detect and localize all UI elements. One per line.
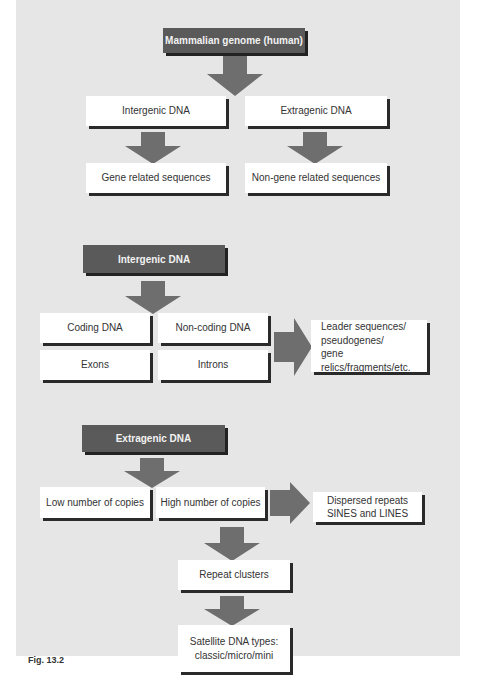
introns-node: Introns bbox=[158, 350, 268, 380]
dispersed-repeats-node: Dispersed repeats SINES and LINES bbox=[313, 492, 422, 522]
dispersed-repeats-label: Dispersed repeats bbox=[327, 494, 408, 508]
coding-dna-node: Coding DNA bbox=[40, 313, 150, 343]
leader-sequences-node: Leader sequences/ pseudogenes/ gene reli… bbox=[311, 320, 427, 372]
gene-related-label: Gene related sequences bbox=[102, 171, 211, 185]
gene-relics-label: gene relics/fragments/etc. bbox=[321, 347, 427, 374]
figure-caption: Fig. 13.2 bbox=[28, 655, 64, 665]
arrow-down-icon bbox=[287, 132, 343, 164]
intergenic-dna-node: Intergenic DNA bbox=[86, 96, 226, 126]
root-node-label: Mammalian genome (human) bbox=[165, 35, 303, 46]
satellite-types-label: Satellite DNA types: bbox=[190, 635, 278, 649]
extragenic-header: Extragenic DNA bbox=[82, 425, 225, 452]
satellite-dna-node: Satellite DNA types: classic/micro/mini bbox=[178, 625, 290, 672]
pseudogenes-label: pseudogenes/ bbox=[321, 334, 384, 348]
gene-related-node: Gene related sequences bbox=[86, 163, 226, 193]
arrow-right-icon bbox=[270, 482, 310, 524]
arrow-down-icon bbox=[207, 56, 263, 96]
repeat-clusters-node: Repeat clusters bbox=[178, 560, 290, 590]
high-copies-node: High number of copies bbox=[156, 487, 265, 518]
arrow-right-icon bbox=[274, 318, 312, 376]
arrow-down-icon bbox=[204, 596, 260, 626]
coding-dna-label: Coding DNA bbox=[67, 321, 123, 335]
exons-node: Exons bbox=[40, 350, 150, 380]
non-coding-dna-label: Non-coding DNA bbox=[175, 321, 250, 335]
high-copies-label: High number of copies bbox=[160, 496, 260, 510]
extragenic-dna-label: Extragenic DNA bbox=[280, 104, 351, 118]
non-gene-related-label: Non-gene related sequences bbox=[252, 171, 380, 185]
arrow-down-icon bbox=[125, 281, 181, 314]
non-gene-related-node: Non-gene related sequences bbox=[245, 163, 387, 193]
repeat-clusters-label: Repeat clusters bbox=[199, 568, 268, 582]
extragenic-header-label: Extragenic DNA bbox=[116, 433, 192, 444]
arrow-down-icon bbox=[124, 458, 180, 488]
introns-label: Introns bbox=[198, 358, 229, 372]
low-copies-node: Low number of copies bbox=[40, 487, 150, 518]
intergenic-dna-label: Intergenic DNA bbox=[122, 104, 190, 118]
root-node: Mammalian genome (human) bbox=[163, 28, 305, 53]
intergenic-header: Intergenic DNA bbox=[83, 245, 225, 273]
exons-label: Exons bbox=[81, 358, 109, 372]
leader-sequences-label: Leader sequences/ bbox=[321, 320, 406, 334]
arrow-down-icon bbox=[204, 527, 260, 561]
arrow-down-icon bbox=[125, 132, 181, 164]
intergenic-header-label: Intergenic DNA bbox=[118, 254, 190, 265]
extragenic-dna-node: Extragenic DNA bbox=[245, 96, 387, 126]
low-copies-label: Low number of copies bbox=[46, 496, 144, 510]
sines-lines-label: SINES and LINES bbox=[327, 507, 408, 521]
non-coding-dna-node: Non-coding DNA bbox=[158, 313, 268, 343]
satellite-subtypes-label: classic/micro/mini bbox=[195, 649, 273, 663]
